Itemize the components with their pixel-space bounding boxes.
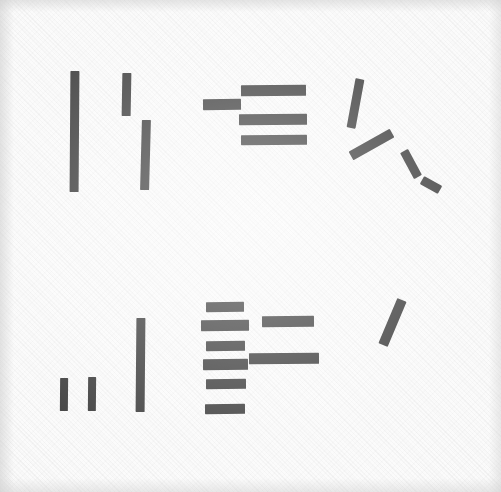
- ink-stroke-ll-v3: [136, 318, 146, 412]
- ink-stroke-lm-h3: [206, 341, 245, 351]
- ink-stroke-lr-d1: [378, 298, 406, 347]
- ink-stroke-ur-d2: [349, 129, 395, 161]
- ink-stroke-ur-d4: [420, 176, 442, 194]
- stroke-group: [60, 71, 442, 414]
- ink-stroke-lm-h1: [206, 302, 244, 312]
- ink-stroke-ll-v2: [88, 377, 96, 411]
- stroke-canvas: [0, 0, 501, 492]
- ink-stroke-ul-v2: [122, 73, 132, 116]
- ink-stroke-um-h1: [241, 85, 306, 96]
- ink-stroke-layer: [0, 0, 501, 492]
- ink-stroke-lm-h4: [203, 359, 248, 370]
- ink-stroke-ul-v3: [140, 120, 151, 190]
- ink-stroke-lm-h6: [205, 404, 245, 414]
- ink-stroke-ul-v1: [70, 71, 80, 192]
- ink-stroke-lr-h1: [262, 316, 314, 327]
- ink-stroke-um-h2: [239, 114, 307, 125]
- ink-stroke-lm-h2: [201, 320, 249, 331]
- ink-stroke-lr-h2: [249, 353, 319, 364]
- ink-stroke-ur-d1: [347, 78, 365, 129]
- ink-stroke-ur-d3: [400, 149, 422, 179]
- ink-stroke-lm-h5: [206, 379, 246, 389]
- ink-stroke-ll-v1: [60, 378, 68, 411]
- ink-stroke-um-h3: [241, 135, 307, 145]
- scanned-page: [0, 0, 501, 492]
- ink-stroke-um-h0: [203, 99, 241, 110]
